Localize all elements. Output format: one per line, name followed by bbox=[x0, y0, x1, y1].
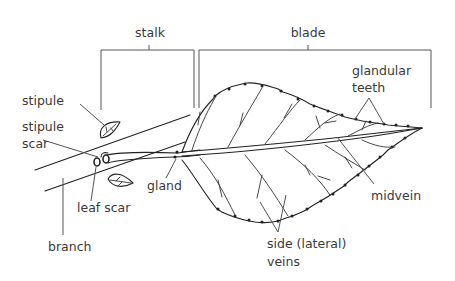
stalk-label: stalk bbox=[135, 25, 166, 40]
leaf-scar-label: leaf scar bbox=[77, 200, 131, 215]
gland-leader bbox=[166, 159, 176, 178]
side-veins-label-line2: veins bbox=[267, 254, 300, 269]
leaf-scar-leader bbox=[91, 167, 96, 201]
blade-label: blade bbox=[291, 25, 326, 40]
side-veins-drawing bbox=[192, 88, 395, 216]
stipule-leader bbox=[80, 104, 104, 125]
glandular-teeth-label-line1: glandular bbox=[352, 63, 412, 78]
glandular-teeth-label-line2: teeth bbox=[352, 80, 385, 95]
stipule-lower-drawing bbox=[108, 174, 133, 186]
side-veins-leader bbox=[260, 195, 286, 232]
stipule-scar-label-line2: scar bbox=[22, 136, 49, 151]
labels: stipule stipule scar glandular teeth gla… bbox=[22, 63, 421, 269]
leaf-diagram: stalk blade bbox=[0, 0, 455, 281]
gland-label: gland bbox=[147, 178, 182, 193]
stalk-bracket: stalk bbox=[101, 25, 194, 110]
midvein-label: midvein bbox=[371, 188, 421, 203]
gland-dot bbox=[175, 150, 178, 153]
stipule-label: stipule bbox=[22, 93, 64, 108]
stipule-scar-label-line1: stipule bbox=[22, 119, 64, 134]
branch-label: branch bbox=[48, 239, 91, 254]
stipule-scar-leader bbox=[43, 140, 98, 157]
side-veins-label-line1: side (lateral) bbox=[267, 236, 346, 251]
